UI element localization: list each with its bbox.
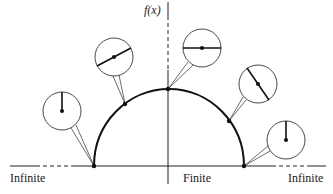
x-label-finite: Finite [183, 171, 211, 185]
callout-upper-right [239, 65, 277, 103]
x-label-right-infinite: Infinite [288, 171, 323, 185]
center-dot [256, 82, 260, 86]
center-dot [112, 55, 116, 59]
callout-upper-left [95, 38, 133, 76]
center-dot [60, 109, 64, 113]
center-dot [200, 46, 204, 50]
x-label-left-infinite: Infinite [10, 171, 45, 185]
y-axis-label: f(x) [144, 3, 161, 17]
arc-points [92, 87, 246, 168]
callout-left-base [43, 92, 81, 130]
center-dot [284, 138, 288, 142]
semicircle-diagram: f(x) Infinite Finite Infinite [0, 0, 333, 194]
callout-right-base [267, 121, 305, 159]
semicircle-curve [94, 89, 244, 166]
callout-top [183, 29, 221, 67]
